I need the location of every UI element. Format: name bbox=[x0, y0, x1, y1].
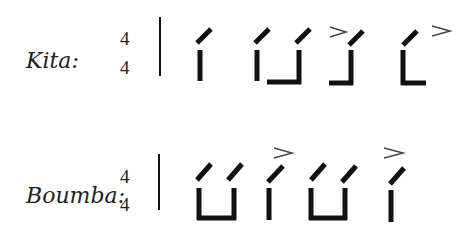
accent-icon bbox=[274, 148, 292, 158]
kita-glyph-3 bbox=[329, 31, 363, 85]
boumba-glyph-1 bbox=[197, 164, 242, 220]
kita-glyph-2 bbox=[255, 29, 310, 84]
accent-icon bbox=[384, 148, 403, 158]
accent-icon bbox=[432, 26, 450, 36]
accent-icon bbox=[330, 27, 346, 37]
kita-glyph-4 bbox=[401, 31, 426, 85]
rhythm-notation bbox=[0, 0, 473, 233]
kita-glyph-1 bbox=[197, 29, 211, 81]
boumba-glyph-4 bbox=[390, 168, 404, 222]
boumba-glyph-2 bbox=[268, 166, 283, 220]
boumba-glyph-3 bbox=[309, 164, 356, 220]
